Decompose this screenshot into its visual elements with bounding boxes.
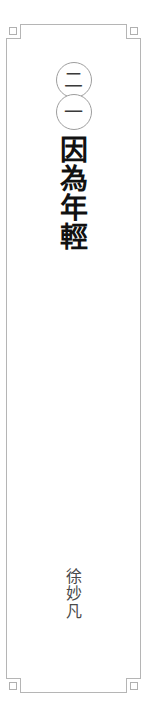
corner-square-bottom-right bbox=[131, 683, 138, 690]
chapter-number-digit: 一 bbox=[64, 103, 83, 122]
chapter-number-digit: 二 bbox=[64, 71, 83, 90]
chapter-number-circle-second: 一 bbox=[56, 94, 92, 130]
chapter-number-circle-first: 二 bbox=[56, 62, 92, 98]
chapter-title: 因 為 年 輕 bbox=[0, 136, 147, 252]
title-char: 年 bbox=[60, 194, 88, 223]
title-char: 為 bbox=[60, 165, 88, 194]
corner-square-bottom-left bbox=[10, 683, 17, 690]
corner-square-top-left bbox=[10, 28, 17, 35]
author-char: 凡 bbox=[66, 603, 82, 620]
author-char: 妙 bbox=[66, 585, 82, 602]
title-char: 因 bbox=[60, 136, 88, 165]
title-char: 輕 bbox=[60, 223, 88, 252]
author-byline: 徐 妙 凡 bbox=[0, 568, 147, 620]
chapter-number: 二 一 bbox=[0, 62, 147, 130]
chapter-title-page: 二 一 因 為 年 輕 徐 妙 凡 bbox=[0, 0, 147, 717]
author-char: 徐 bbox=[66, 568, 82, 585]
corner-square-top-right bbox=[131, 28, 138, 35]
